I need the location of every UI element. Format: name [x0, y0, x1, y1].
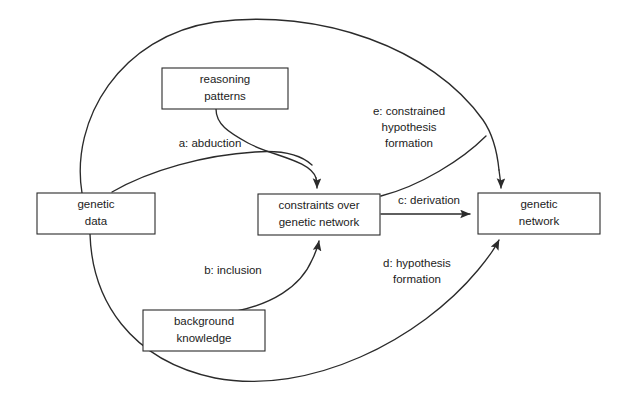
node-genetic-data[interactable]: genetic data	[37, 193, 155, 234]
edge-label-b-inclusion: b: inclusion	[204, 264, 262, 276]
edge-label-e-line2: hypothesis	[382, 121, 437, 133]
node-constraints-line1: constraints over	[278, 199, 359, 211]
node-reasoning-patterns-line1: reasoning	[200, 73, 251, 85]
node-genetic-data-line2: data	[85, 215, 108, 227]
node-background-knowledge[interactable]: background knowledge	[143, 310, 265, 351]
node-reasoning-patterns[interactable]: reasoning patterns	[162, 68, 288, 109]
node-genetic-network[interactable]: genetic network	[478, 193, 600, 234]
edge-label-d-line1: d: hypothesis	[383, 257, 451, 269]
node-reasoning-patterns-line2: patterns	[204, 90, 246, 102]
node-constraints-over-genetic-network[interactable]: constraints over genetic network	[258, 194, 380, 235]
edge-label-c-derivation: c: derivation	[398, 194, 460, 206]
diagram-svg: reasoning patterns genetic data constrai…	[0, 0, 633, 412]
edge-label-d-hypothesis-formation: d: hypothesis formation	[383, 257, 451, 285]
node-genetic-data-line1: genetic	[77, 198, 114, 210]
edge-label-e-constrained-hypothesis-formation: e: constrained hypothesis formation	[373, 105, 445, 149]
edge-e-arrow-into-genetic-network	[499, 170, 501, 188]
edge-a-from-genetic-data	[112, 152, 312, 192]
diagram-canvas: reasoning patterns genetic data constrai…	[0, 0, 633, 412]
node-genetic-network-line2: network	[519, 215, 560, 227]
node-background-knowledge-line1: background	[174, 315, 234, 327]
node-background-knowledge-line2: knowledge	[177, 332, 232, 344]
edge-label-d-line2: formation	[393, 273, 441, 285]
edge-label-e-line1: e: constrained	[373, 105, 445, 117]
edge-label-e-line3: formation	[385, 137, 433, 149]
edge-a-arrow-into-constraints	[316, 178, 317, 188]
node-genetic-network-line1: genetic	[520, 198, 557, 210]
node-constraints-line2: genetic network	[279, 216, 360, 228]
edge-label-a-abduction: a: abduction	[179, 137, 242, 149]
edge-a-abduction	[112, 109, 317, 192]
